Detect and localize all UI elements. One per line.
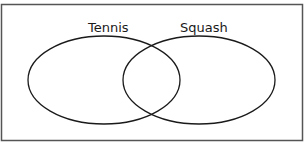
universal-set-frame: [2, 5, 303, 141]
tennis-set-ellipse: [28, 36, 180, 124]
squash-set-ellipse: [123, 36, 275, 124]
tennis-label: Tennis: [88, 21, 129, 34]
venn-diagram: [0, 0, 305, 143]
squash-label: Squash: [180, 21, 228, 34]
